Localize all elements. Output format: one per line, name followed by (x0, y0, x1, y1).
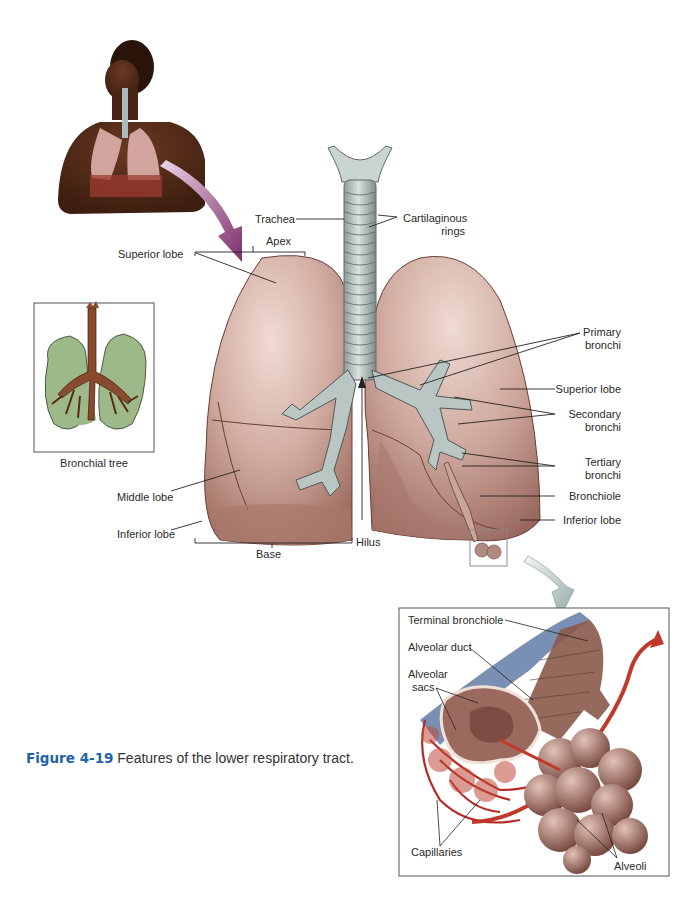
figure-caption: Figure 4-19 Features of the lower respir… (26, 750, 354, 766)
label-hilus: Hilus (356, 536, 380, 549)
label-secondary-bronchi-line1: Secondary (560, 408, 621, 421)
label-cartilaginous-rings-line1: Cartilaginous (403, 212, 467, 225)
label-bronchial-tree: Bronchial tree (34, 457, 154, 470)
label-capillaries: Capillaries (411, 846, 462, 859)
figure-caption-text: Features of the lower respiratory tract. (117, 750, 354, 766)
label-alveolar-sacs-line1: Alveolar (408, 668, 448, 681)
label-tertiary-bronchi-line1: Tertiary (560, 456, 621, 469)
label-primary-bronchi-line2: bronchi (560, 339, 621, 352)
label-tertiary-bronchi-line2: bronchi (560, 469, 621, 482)
label-primary-bronchi-line1: Primary (560, 326, 621, 339)
label-cartilaginous-rings-line2: rings (403, 225, 465, 238)
label-terminal-bronchiole: Terminal bronchiole (408, 614, 503, 627)
label-inferior-lobe-left: Inferior lobe (117, 528, 175, 541)
label-base: Base (256, 548, 281, 561)
label-bronchiole: Bronchiole (540, 490, 621, 503)
label-alveolar-duct: Alveolar duct (408, 641, 472, 654)
label-trachea: Trachea (255, 213, 295, 226)
label-inferior-lobe-right: Inferior lobe (540, 514, 621, 527)
label-middle-lobe: Middle lobe (117, 491, 173, 504)
label-apex: Apex (266, 235, 291, 248)
label-alveolar-sacs-line2: sacs (412, 681, 435, 694)
label-alveoli: Alveoli (614, 860, 646, 873)
figure-number: Figure 4-19 (26, 750, 113, 766)
label-superior-lobe-right: Superior lobe (540, 383, 621, 396)
label-secondary-bronchi-line2: bronchi (560, 421, 621, 434)
label-superior-lobe-left: Superior lobe (118, 248, 183, 261)
torso-figure (58, 40, 205, 214)
